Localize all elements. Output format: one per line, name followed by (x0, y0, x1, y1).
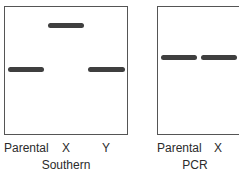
pcr-lane-label-parental: Parental (157, 141, 199, 155)
pcr-title: PCR (175, 158, 215, 172)
southern-lane-label-y: Y (96, 141, 116, 155)
southern-lane-label-x: X (56, 141, 76, 155)
southern-band-y (88, 67, 125, 72)
southern-title: Southern (36, 158, 96, 172)
pcr-lane-label-x: X (208, 141, 228, 155)
southern-lane-label-parental: Parental (4, 141, 46, 155)
southern-band-parental (8, 67, 44, 72)
pcr-gel (157, 6, 239, 135)
pcr-band-x (201, 55, 237, 60)
southern-band-x (48, 23, 84, 28)
pcr-band-parental (161, 55, 197, 60)
